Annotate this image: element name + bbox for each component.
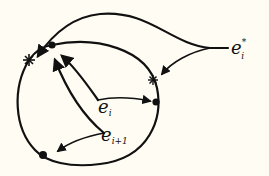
- vertex-dot-right: [152, 98, 159, 105]
- label-e-i: ei: [98, 96, 112, 118]
- star-marker-right: [148, 75, 158, 85]
- label-e-i-plus-1: ei+1: [101, 124, 128, 146]
- diagram-canvas: e*i ei ei+1: [0, 0, 269, 176]
- closed-loop-curve: [18, 42, 159, 165]
- arrow-ei1-to-bottom-left: [58, 133, 104, 151]
- arrow-ei-star-to-right-star: [162, 48, 210, 74]
- label-e-i-star: e*i: [231, 37, 247, 61]
- arrow-ei-to-top: [62, 56, 98, 100]
- arrow-ei-star-to-left-star: [38, 14, 228, 56]
- vertex-dot-top: [48, 41, 55, 48]
- vertex-dot-bottom-left: [39, 151, 47, 159]
